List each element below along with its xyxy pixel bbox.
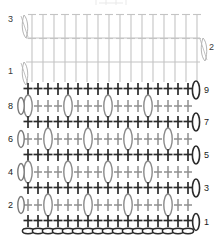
turning-chain-row5 [192,146,199,164]
turning-chain-row7 [192,113,199,131]
row-label-5: 5 [204,150,209,160]
crochet-chart-container: 3 [0,0,220,249]
row-label-9: 9 [204,85,209,95]
turning-chain-row3 [192,179,199,197]
row-label-8: 8 [8,101,13,111]
crochet-stitch-chart: 3 [0,0,220,249]
turning-chain-row8 [18,98,24,115]
row-label-1: 1 [204,217,209,227]
row-label-top-3: 3 [8,14,13,24]
turning-chain-row2 [18,197,24,214]
turning-chain-row4 [18,164,24,181]
turning-chain-row1 [193,214,200,231]
turning-chain-row9 [192,81,199,99]
row-label-top-2: 2 [209,42,214,52]
row-label-2: 2 [8,200,13,210]
row-label-3: 3 [204,183,209,193]
row-label-top-1: 1 [8,66,13,76]
foundation-chain-row [22,228,193,233]
row-label-4: 4 [8,167,13,177]
turning-chain-row6 [18,131,24,148]
chart-background [0,0,220,249]
row-label-7: 7 [204,117,209,127]
row-label-6: 6 [8,134,13,144]
